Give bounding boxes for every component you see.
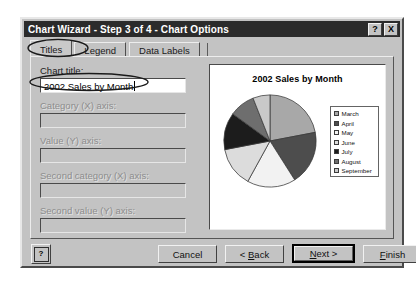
pie-chart-svg [222,93,318,189]
legend-item: August [334,158,376,165]
legend-item: March [334,110,376,117]
value-y-axis-input [40,148,186,163]
chart-preview-panel: 2002 Sales by Month MarchAprilMayJuneJul… [209,64,386,230]
tab-titles[interactable]: Titles [30,40,72,57]
tab-legend-label: Legend [84,45,116,56]
tab-data-labels-label: Data Labels [139,45,190,56]
legend-label: September [342,167,372,174]
title-bar[interactable]: Chart Wizard - Step 3 of 4 - Chart Optio… [24,21,400,37]
legend-label: August [342,158,361,165]
help-titlebar-icon[interactable]: ? [368,23,382,36]
chart-title-value: 2002 Sales by Month [44,81,133,92]
tab-legend[interactable]: Legend [74,42,126,57]
tab-strip-divider [207,43,208,57]
legend-swatch [334,149,339,154]
legend-item: July [334,148,376,155]
screen: Chart Wizard - Step 3 of 4 - Chart Optio… [0,0,416,285]
cancel-button[interactable]: Cancel [158,245,217,263]
legend-label: July [342,148,353,155]
next-button[interactable]: Next > [292,244,355,263]
second-value-y-axis-input [40,218,186,233]
legend-label: March [342,110,359,117]
chart-preview-title: 2002 Sales by Month [210,74,385,84]
back-button[interactable]: < Back [225,245,284,263]
back-button-label: < Back [240,249,269,260]
finish-button-label: Finish [380,249,405,260]
window-title: Chart Wizard - Step 3 of 4 - Chart Optio… [28,24,366,35]
chart-wizard-dialog: Chart Wizard - Step 3 of 4 - Chart Optio… [20,17,404,268]
help-button[interactable]: ? [31,244,51,264]
tab-titles-label: Titles [40,44,62,55]
dialog-button-bar: ? Cancel < Back Next > Finish [22,241,402,267]
text-caret [134,81,135,91]
finish-button[interactable]: Finish [363,245,416,263]
category-x-axis-input [40,113,186,128]
legend-swatch [334,111,339,116]
next-button-label: Next > [294,246,353,261]
cancel-button-label: Cancel [173,249,203,260]
legend-label: May [342,129,354,136]
chart-title-input[interactable]: 2002 Sales by Month [40,78,186,93]
category-x-axis-label: Category (X) axis: [40,100,195,111]
legend-swatch [334,140,339,145]
chart-title-label: Chart title: [40,65,195,76]
help-question-icon: ? [34,247,49,262]
chart-legend: MarchAprilMayJuneJulyAugustSeptember [330,106,379,177]
second-value-y-axis-label: Second value (Y) axis: [40,205,195,216]
legend-swatch [334,130,339,135]
legend-label: April [342,120,354,127]
tab-data-labels[interactable]: Data Labels [129,42,200,57]
tab-strip: Titles Legend Data Labels [30,40,394,57]
value-y-axis-label: Value (Y) axis: [40,135,195,146]
close-icon[interactable]: X [384,23,398,36]
legend-item: May [334,129,376,136]
legend-swatch [334,159,339,164]
titles-tab-panel: Chart title: 2002 Sales by Month Categor… [30,56,394,239]
second-category-x-axis-input [40,183,186,198]
legend-label: June [342,139,355,146]
legend-item: June [334,139,376,146]
legend-swatch [334,168,339,173]
legend-item: September [334,167,376,174]
chart-preview-area: MarchAprilMayJuneJulyAugustSeptember [210,84,385,216]
titles-form: Chart title: 2002 Sales by Month Categor… [40,65,195,240]
legend-item: April [334,120,376,127]
pie-chart [222,93,318,189]
legend-swatch [334,121,339,126]
second-category-x-axis-label: Second category (X) axis: [40,170,195,181]
